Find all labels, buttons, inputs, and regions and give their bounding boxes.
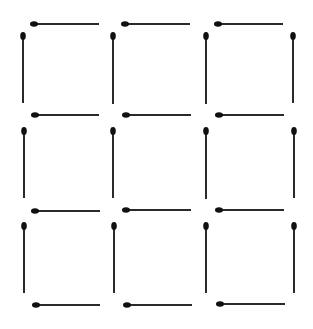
match-head-icon [214, 21, 222, 27]
match-head-icon [110, 32, 116, 40]
match-horizontal [215, 112, 284, 118]
match-vertical [290, 32, 296, 103]
match-vertical [111, 222, 117, 293]
match-horizontal [214, 21, 283, 27]
match-vertical [110, 127, 116, 198]
match-head-icon [203, 32, 209, 40]
match-horizontal [31, 208, 100, 214]
match-horizontal [31, 112, 99, 118]
match-head-icon [32, 302, 40, 308]
match-head-icon [31, 112, 39, 118]
match-head-icon [203, 222, 209, 230]
horizontal-matches [30, 21, 285, 308]
match-head-icon [215, 207, 223, 213]
match-head-icon [110, 127, 116, 135]
match-head-icon [215, 112, 223, 118]
match-head-icon [122, 207, 130, 213]
match-vertical [110, 32, 116, 104]
match-head-icon [121, 21, 129, 27]
match-vertical [203, 127, 209, 199]
match-horizontal [122, 112, 191, 118]
match-horizontal [30, 21, 99, 27]
match-horizontal [215, 207, 284, 213]
match-vertical [20, 32, 26, 103]
match-head-icon [31, 208, 39, 214]
match-head-icon [20, 32, 26, 40]
match-head-icon [111, 222, 117, 230]
matchstick-grid [0, 0, 313, 329]
match-head-icon [30, 21, 38, 27]
match-vertical [291, 127, 297, 198]
match-horizontal [123, 302, 192, 308]
match-head-icon [122, 112, 130, 118]
match-vertical [203, 222, 209, 293]
match-head-icon [291, 222, 297, 230]
match-horizontal [121, 21, 190, 27]
match-vertical [21, 222, 27, 293]
match-head-icon [123, 302, 131, 308]
match-vertical [21, 127, 27, 198]
match-head-icon [21, 222, 27, 230]
match-head-icon [21, 127, 27, 135]
match-vertical [291, 222, 297, 293]
match-head-icon [203, 127, 209, 135]
match-horizontal [122, 207, 191, 213]
match-head-icon [291, 127, 297, 135]
match-vertical [203, 32, 209, 104]
match-head-icon [290, 32, 296, 40]
match-head-icon [216, 301, 224, 307]
match-horizontal [216, 301, 285, 307]
match-horizontal [32, 302, 100, 308]
vertical-matches [20, 32, 297, 293]
